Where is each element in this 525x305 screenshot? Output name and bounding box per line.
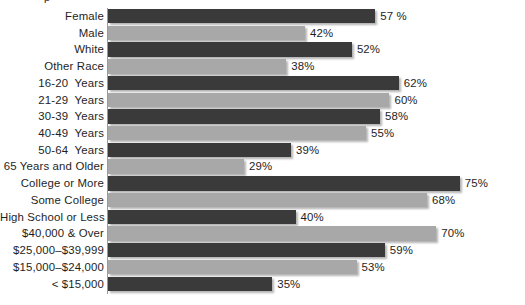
bar xyxy=(108,159,244,173)
bar-value-label: 42% xyxy=(310,26,333,40)
bar-value-label: 70% xyxy=(441,226,464,240)
bar xyxy=(108,126,366,140)
bar xyxy=(108,76,399,90)
category-label: 40-49 Years xyxy=(0,126,104,140)
bar-row: 50-64 Years39% xyxy=(0,143,525,157)
category-label: White xyxy=(0,42,104,56)
bar-row: Female57 % xyxy=(0,9,525,23)
bar-value-label: 59% xyxy=(390,243,413,257)
bar-row: Other Race38% xyxy=(0,59,525,73)
category-label: High School or Less xyxy=(0,210,104,224)
bar-value-label: 40% xyxy=(301,210,324,224)
bar-value-label: 35% xyxy=(277,277,300,291)
bar-value-label: 68% xyxy=(432,193,455,207)
bar-value-label: 38% xyxy=(291,59,314,73)
bar-value-label: 29% xyxy=(249,159,272,173)
bar-row: $25,000–$39,99959% xyxy=(0,243,525,257)
category-label: $15,000–$24,000 xyxy=(0,260,104,274)
bar xyxy=(108,210,296,224)
category-label: 21-29 Years xyxy=(0,93,104,107)
category-label: Male xyxy=(0,26,104,40)
bar xyxy=(108,109,380,123)
bar xyxy=(108,59,286,73)
bar-value-label: 39% xyxy=(296,143,319,157)
bar-row: < $15,00035% xyxy=(0,277,525,291)
category-label: < $15,000 xyxy=(0,277,104,291)
chart-title-fragment: p xyxy=(44,0,50,3)
bar xyxy=(108,226,436,240)
bar-row: College or More75% xyxy=(0,176,525,190)
category-label: $25,000–$39,999 xyxy=(0,243,104,257)
bar xyxy=(108,42,352,56)
bar-row: High School or Less40% xyxy=(0,210,525,224)
category-label: Some College xyxy=(0,193,104,207)
bar-row: Some College68% xyxy=(0,193,525,207)
category-label: Female xyxy=(0,9,104,23)
bar xyxy=(108,193,427,207)
bar-row: $40,000 & Over70% xyxy=(0,226,525,240)
bar-row: 40-49 Years55% xyxy=(0,126,525,140)
category-label: 30-39 Years xyxy=(0,109,104,123)
bar-row: 16-20 Years62% xyxy=(0,76,525,90)
bar-value-label: 52% xyxy=(357,42,380,56)
bar-chart: p Female57 %Male42%White52%Other Race38%… xyxy=(0,0,525,305)
bar-row: Male42% xyxy=(0,26,525,40)
bar-row: 21-29 Years60% xyxy=(0,93,525,107)
bar-value-label: 60% xyxy=(394,93,417,107)
bar-value-label: 53% xyxy=(362,260,385,274)
category-label: Other Race xyxy=(0,59,104,73)
bar-row: $15,000–$24,00053% xyxy=(0,260,525,274)
category-label: 65 Years and Older xyxy=(0,159,104,173)
bar xyxy=(108,9,375,23)
bar-row: 65 Years and Older29% xyxy=(0,159,525,173)
bar-row: White52% xyxy=(0,42,525,56)
bar xyxy=(108,260,357,274)
bar xyxy=(108,143,291,157)
bar xyxy=(108,93,389,107)
bar-value-label: 75% xyxy=(465,176,488,190)
bar-value-label: 55% xyxy=(371,126,394,140)
category-label: College or More xyxy=(0,176,104,190)
bar-value-label: 62% xyxy=(404,76,427,90)
bar xyxy=(108,26,305,40)
bar xyxy=(108,243,385,257)
bar xyxy=(108,277,272,291)
category-label: 50-64 Years xyxy=(0,143,104,157)
category-label: $40,000 & Over xyxy=(0,226,104,240)
bar-value-label: 57 % xyxy=(380,9,407,23)
bar-value-label: 58% xyxy=(385,109,408,123)
category-label: 16-20 Years xyxy=(0,76,104,90)
bar-row: 30-39 Years58% xyxy=(0,109,525,123)
bar xyxy=(108,176,460,190)
